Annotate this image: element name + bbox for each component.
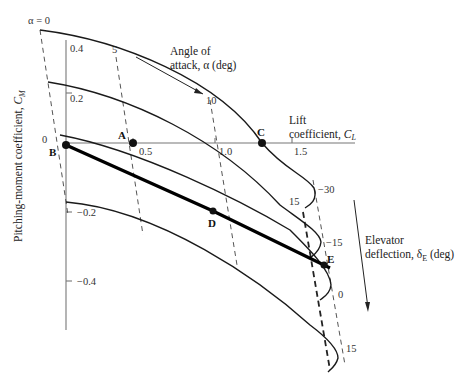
point-label-a: A	[118, 129, 126, 141]
point-a	[129, 139, 137, 147]
y-tick-label: −0.2	[77, 207, 96, 218]
alpha-label: 15	[289, 196, 300, 207]
alpha-title-line1: Angle of	[170, 45, 211, 58]
moment-lift-diagram: 0.4 0.2 0 −0.2 −0.4 0.5 1.0 1.5 Pitching…	[0, 0, 459, 378]
elevator-arrowhead-icon	[365, 302, 370, 312]
point-d	[210, 208, 217, 215]
y-axis-title: Pitching-moment coefficient, CM	[12, 89, 27, 242]
alpha-arrowhead-icon	[194, 88, 203, 94]
x-tick-label: 0.5	[139, 146, 152, 157]
alpha-15-line	[303, 212, 330, 370]
y-tick-label: 0.2	[70, 93, 83, 104]
elevator-title-line1: Elevator	[365, 234, 404, 246]
x-axis-title-line1: Lift	[289, 114, 307, 126]
alpha-15-thin-line	[313, 180, 345, 365]
elevator-label: 15	[346, 343, 357, 354]
alpha-title-line2: attack, α (deg)	[170, 59, 237, 72]
elevator-label: −15	[326, 237, 342, 248]
x-tick-label: 1.5	[294, 146, 307, 157]
y-tick-label: −0.4	[77, 276, 97, 287]
point-label-b: B	[49, 146, 57, 158]
elevator-label: −30	[318, 184, 334, 195]
point-label-d: D	[208, 217, 216, 229]
x-axis-title-line2: coefficient, CL	[289, 128, 356, 142]
y-tick-label: 0.4	[70, 43, 84, 54]
elevator-title-line2: deflection, δE (deg)	[365, 248, 454, 263]
point-label-c: C	[257, 126, 265, 138]
point-c	[258, 139, 266, 147]
curve-delta-neg15	[48, 82, 321, 258]
alpha-10-line	[210, 100, 237, 265]
y-tick-label: 0	[42, 134, 47, 145]
x-tick-label: 1.0	[219, 146, 232, 157]
elevator-label: 0	[338, 289, 343, 300]
curve-delta-15	[66, 202, 338, 372]
alpha-label: 10	[206, 95, 217, 106]
point-label-e: E	[327, 253, 334, 265]
alpha-zero-label: α = 0	[28, 15, 50, 26]
alpha-0-line	[40, 30, 68, 215]
point-b	[62, 141, 70, 149]
